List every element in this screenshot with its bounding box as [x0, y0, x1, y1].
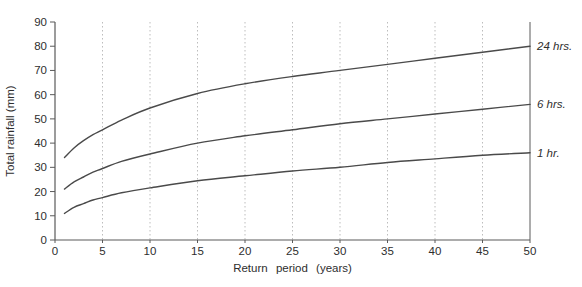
x-tick-label-45: 45 — [476, 245, 489, 257]
x-tick-label-30: 30 — [334, 245, 347, 257]
chart-canvas: 010203040506070809005101520253035404550T… — [0, 0, 582, 287]
x-tick-label-10: 10 — [144, 245, 157, 257]
x-axis-title: Return period (years) — [233, 262, 352, 274]
series-curve-1-hr — [65, 153, 531, 214]
y-tick-label-40: 40 — [34, 137, 47, 149]
x-tick-label-25: 25 — [286, 245, 299, 257]
y-axis-title: Total rainfall (mm) — [4, 85, 16, 177]
series-label-24-hrs: 24 hrs. — [536, 40, 572, 52]
rainfall-return-period-chart: 010203040506070809005101520253035404550T… — [0, 0, 582, 287]
x-tick-label-20: 20 — [239, 245, 252, 257]
series-label-6-hrs: 6 hrs. — [537, 98, 566, 110]
x-tick-label-0: 0 — [52, 245, 58, 257]
y-tick-label-80: 80 — [34, 40, 47, 52]
y-tick-label-50: 50 — [34, 113, 47, 125]
y-tick-label-0: 0 — [41, 234, 47, 246]
y-tick-label-90: 90 — [34, 16, 47, 28]
y-tick-label-20: 20 — [34, 186, 47, 198]
y-tick-label-10: 10 — [34, 210, 47, 222]
series-curve-6-hrs — [65, 104, 531, 189]
x-tick-label-35: 35 — [381, 245, 394, 257]
x-tick-label-15: 15 — [191, 245, 204, 257]
y-tick-label-30: 30 — [34, 161, 47, 173]
x-tick-label-50: 50 — [524, 245, 537, 257]
y-tick-label-60: 60 — [34, 89, 47, 101]
series-curve-24-hrs — [65, 46, 531, 157]
x-tick-label-5: 5 — [99, 245, 105, 257]
series-label-1-hr: 1 hr. — [537, 147, 560, 159]
y-tick-label-70: 70 — [34, 64, 47, 76]
x-tick-label-40: 40 — [429, 245, 442, 257]
